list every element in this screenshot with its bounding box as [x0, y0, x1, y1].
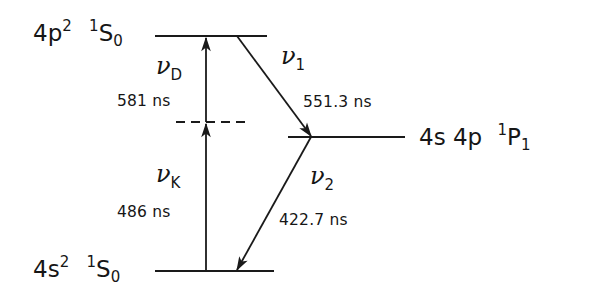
level-label-upper: 4p2 1S0: [33, 22, 123, 45]
term-symbol: S: [96, 256, 111, 282]
wavelength-nu-1: 551.3 ns: [303, 95, 372, 111]
nu-symbol: ν: [310, 162, 325, 190]
config: 4s: [33, 256, 60, 282]
nu-subscript: 1: [296, 56, 306, 74]
transition-symbol-nu-k: νK: [156, 162, 180, 186]
multiplicity-superscript: 1: [86, 253, 96, 271]
wavelength-nu-d: 581 ns: [117, 94, 171, 110]
transition-symbol-nu-2: ν2: [310, 164, 334, 188]
level-label-middle: 4s 4p 1P1: [419, 126, 530, 149]
j-subscript: 0: [111, 268, 121, 286]
multiplicity-superscript: 1: [89, 17, 99, 35]
config-superscript: 2: [62, 17, 72, 35]
config-superscript: 2: [60, 253, 70, 271]
config: 4p: [33, 20, 62, 46]
wavelength-nu-k: 486 ns: [117, 205, 171, 221]
arrow-nu-2: [237, 137, 311, 270]
nu-symbol: ν: [156, 52, 171, 80]
transition-symbol-nu-d: νD: [156, 54, 182, 78]
multiplicity-superscript: 1: [497, 121, 507, 139]
nu-subscript: D: [171, 66, 183, 84]
config: 4s 4p: [419, 124, 482, 150]
nu-subscript: K: [171, 174, 181, 192]
nu-symbol: ν: [156, 160, 171, 188]
j-subscript: 1: [521, 136, 531, 154]
nu-subscript: 2: [325, 176, 335, 194]
nu-symbol: ν: [281, 42, 296, 70]
term-symbol: P: [507, 124, 521, 150]
transition-symbol-nu-1: ν1: [281, 44, 305, 68]
wavelength-nu-2: 422.7 ns: [279, 213, 348, 229]
j-subscript: 0: [113, 32, 123, 50]
term-symbol: S: [99, 20, 114, 46]
level-label-ground: 4s2 1S0: [33, 258, 120, 281]
